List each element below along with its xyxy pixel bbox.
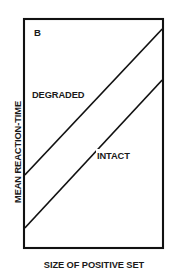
panel-label: B <box>34 27 41 38</box>
series-label-intact: INTACT <box>97 151 130 161</box>
figure-panel-b: MEAN REACTION-TIME B DEGRADED INTACT SIZ… <box>0 0 179 279</box>
x-axis-label: SIZE OF POSITIVE SET <box>14 258 174 272</box>
plot-area: B DEGRADED INTACT <box>0 0 179 279</box>
series-label-degraded: DEGRADED <box>32 90 85 100</box>
plot-frame <box>24 19 163 248</box>
